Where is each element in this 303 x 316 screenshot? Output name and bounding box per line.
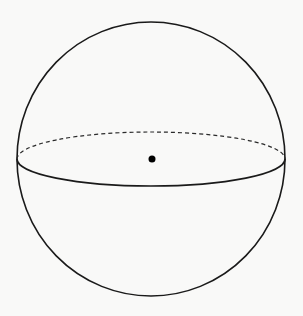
sphere-diagram [0,0,303,316]
sphere-figure [0,0,303,316]
equator-back-dashed [17,132,285,159]
equator-front-solid [17,159,285,186]
center-point [149,156,156,163]
